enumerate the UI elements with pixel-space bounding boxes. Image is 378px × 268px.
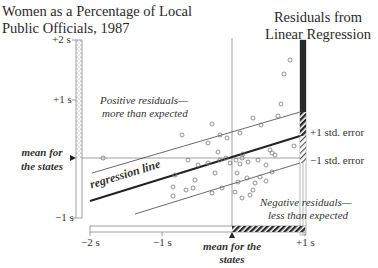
y-axis-bar bbox=[70, 40, 82, 218]
x-axis-bar bbox=[90, 226, 305, 238]
minus-std-error-label: −1 std. error bbox=[310, 154, 364, 166]
x-tick-minus1: −1 s bbox=[153, 236, 172, 248]
positive-residuals-line1: Positive residuals— bbox=[100, 94, 188, 106]
y-tick-minus1: −1 s bbox=[55, 211, 74, 223]
mean-x-marker-icon bbox=[229, 232, 235, 238]
negative-residuals-line1: Negative residuals— bbox=[260, 196, 352, 208]
plus-std-error-label: +1 std. error bbox=[310, 126, 364, 138]
y-tick-plus2: +2 s bbox=[52, 33, 71, 45]
mean-y-label: mean for the states bbox=[14, 145, 70, 173]
positive-residuals-line2: more than expected bbox=[102, 107, 188, 119]
y-tick-plus1: +1 s bbox=[53, 93, 72, 105]
mean-y-marker-icon bbox=[70, 155, 76, 161]
x-tick-plus1: +1 s bbox=[296, 236, 315, 248]
negative-residuals-line2: less than expected bbox=[268, 209, 348, 221]
mean-x-label: mean for the states bbox=[202, 240, 262, 266]
x-tick-minus2: −2 s bbox=[81, 236, 100, 248]
